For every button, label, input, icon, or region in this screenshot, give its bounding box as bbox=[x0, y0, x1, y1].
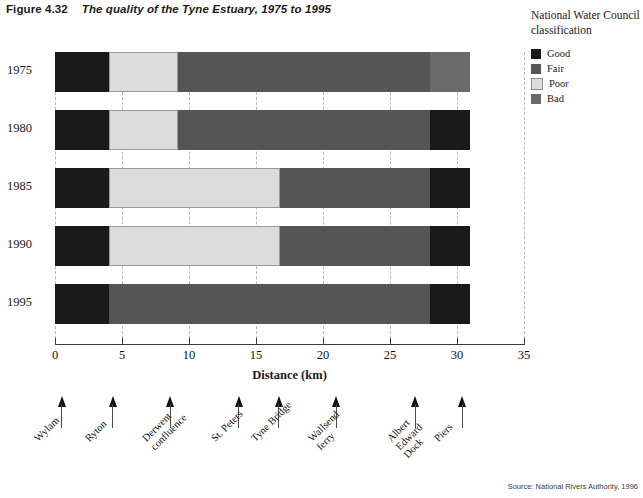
arrow-marker-piers bbox=[457, 396, 467, 428]
arrow-marker-ryton bbox=[108, 396, 118, 428]
bar-segment-1975-fair bbox=[178, 52, 430, 92]
legend-label: Bad bbox=[547, 93, 564, 104]
bar-1995 bbox=[55, 284, 524, 324]
place-label-piers: Piers bbox=[432, 421, 455, 444]
x-tick-label-30: 30 bbox=[451, 348, 464, 363]
bar-segment-1985-good bbox=[55, 168, 109, 208]
x-tick-label-20: 20 bbox=[317, 348, 330, 363]
bar-segment-1995-fair bbox=[109, 284, 431, 324]
legend-items: GoodFairPoorBad bbox=[531, 47, 643, 105]
legend-item-good: Good bbox=[531, 47, 643, 60]
y-axis-title: Year bbox=[0, 188, 2, 214]
x-tick-label-25: 25 bbox=[384, 348, 397, 363]
x-tick-label-5: 5 bbox=[119, 348, 125, 363]
bar-segment-1995-good bbox=[55, 284, 109, 324]
place-label-tyne-bridge: Tyne Bridge bbox=[249, 399, 294, 444]
gridline-35 bbox=[524, 52, 525, 344]
place-label-derwent-confluence: Derwentconfluence bbox=[140, 403, 189, 452]
bar-segment-1990-poor bbox=[109, 226, 281, 266]
x-tick-label-0: 0 bbox=[52, 348, 58, 363]
x-tick-25 bbox=[390, 338, 391, 345]
legend-item-bad: Bad bbox=[531, 92, 643, 105]
plot-area bbox=[55, 52, 524, 344]
bar-segment-1975-poor bbox=[109, 52, 179, 92]
legend-swatch-good bbox=[531, 49, 541, 59]
bar-segment-1975-good bbox=[55, 52, 109, 92]
bar-segment-1980-good bbox=[430, 110, 470, 150]
x-tick-10 bbox=[189, 338, 190, 345]
x-tick-20 bbox=[323, 338, 324, 345]
bar-segment-1985-good bbox=[430, 168, 470, 208]
x-tick-15 bbox=[256, 338, 257, 345]
source-note: Source: National Rivers Authority, 1996 bbox=[508, 482, 638, 491]
place-label-wylam: Wylam bbox=[32, 415, 62, 445]
x-tick-label-35: 35 bbox=[518, 348, 531, 363]
x-tick-5 bbox=[122, 338, 123, 345]
bar-1985 bbox=[55, 168, 524, 208]
legend-swatch-bad bbox=[531, 94, 541, 104]
x-tick-35 bbox=[524, 338, 525, 345]
legend-label: Poor bbox=[549, 78, 569, 89]
x-tick-label-15: 15 bbox=[250, 348, 263, 363]
legend-label: Fair bbox=[547, 63, 564, 74]
legend-swatch-fair bbox=[531, 64, 541, 74]
bar-segment-1980-good bbox=[55, 110, 109, 150]
legend-swatch-poor bbox=[531, 78, 543, 90]
place-label-ryton: Ryton bbox=[83, 418, 109, 444]
y-label-text: 1980 bbox=[7, 121, 32, 136]
x-axis-line bbox=[55, 344, 524, 345]
place-label-wallsend-ferry: Wallsendferry bbox=[306, 409, 350, 453]
legend-item-poor: Poor bbox=[531, 77, 643, 90]
legend-title-line2: classification bbox=[531, 23, 643, 38]
figure-number: Figure 4.32 bbox=[6, 3, 68, 15]
bar-segment-1990-fair bbox=[280, 226, 430, 266]
figure-caption: The quality of the Tyne Estuary, 1975 to… bbox=[82, 3, 331, 15]
legend-title-line1: National Water Council bbox=[531, 8, 643, 23]
bar-segment-1985-poor bbox=[109, 168, 281, 208]
x-axis-title: Distance (km) bbox=[55, 368, 524, 383]
legend-label: Good bbox=[547, 48, 570, 59]
bar-segment-1985-fair bbox=[280, 168, 430, 208]
place-label-line: Ryton bbox=[83, 418, 109, 444]
bar-segment-1995-good bbox=[430, 284, 470, 324]
bar-segment-1980-poor bbox=[109, 110, 179, 150]
legend-title: National Water Council classification bbox=[531, 8, 643, 38]
y-label-text: 1995 bbox=[7, 295, 32, 310]
arrow-shaft bbox=[462, 404, 463, 428]
place-label-line: Tyne Bridge bbox=[249, 399, 294, 444]
x-tick-30 bbox=[457, 338, 458, 345]
place-label-albert-edward-dock: AlbertEdwardDock bbox=[385, 413, 432, 460]
x-tick-0 bbox=[55, 338, 56, 345]
bar-segment-1975-bad bbox=[430, 52, 470, 92]
legend: National Water Council classification Go… bbox=[531, 8, 643, 107]
y-label-text: 1975 bbox=[7, 63, 32, 78]
legend-item-fair: Fair bbox=[531, 62, 643, 75]
x-tick-label-10: 10 bbox=[183, 348, 196, 363]
place-label-line: Wylam bbox=[32, 415, 61, 444]
bar-segment-1990-good bbox=[55, 226, 109, 266]
bar-segment-1990-good bbox=[430, 226, 470, 266]
bar-1990 bbox=[55, 226, 524, 266]
bar-segment-1980-fair bbox=[178, 110, 430, 150]
y-label-text: 1985 bbox=[7, 179, 32, 194]
bar-1980 bbox=[55, 110, 524, 150]
figure-title: Figure 4.32The quality of the Tyne Estua… bbox=[6, 3, 331, 15]
place-label-line: Piers bbox=[432, 421, 455, 444]
arrow-shaft bbox=[112, 404, 113, 428]
y-label-text: 1990 bbox=[7, 237, 32, 252]
arrow-shaft bbox=[61, 404, 62, 428]
bar-1975 bbox=[55, 52, 524, 92]
